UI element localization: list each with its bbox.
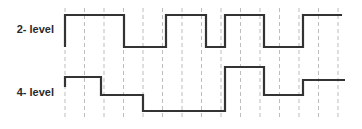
signal-level-diagram: 2- level 4- level	[0, 0, 362, 129]
4-level-waveform	[65, 67, 345, 111]
2-level-waveform	[65, 15, 342, 47]
two-level-label: 2- level	[0, 23, 54, 35]
waveforms	[65, 15, 345, 111]
four-level-label: 4- level	[0, 86, 54, 98]
waveform-plot	[0, 0, 362, 129]
timing-gridlines	[65, 8, 338, 118]
